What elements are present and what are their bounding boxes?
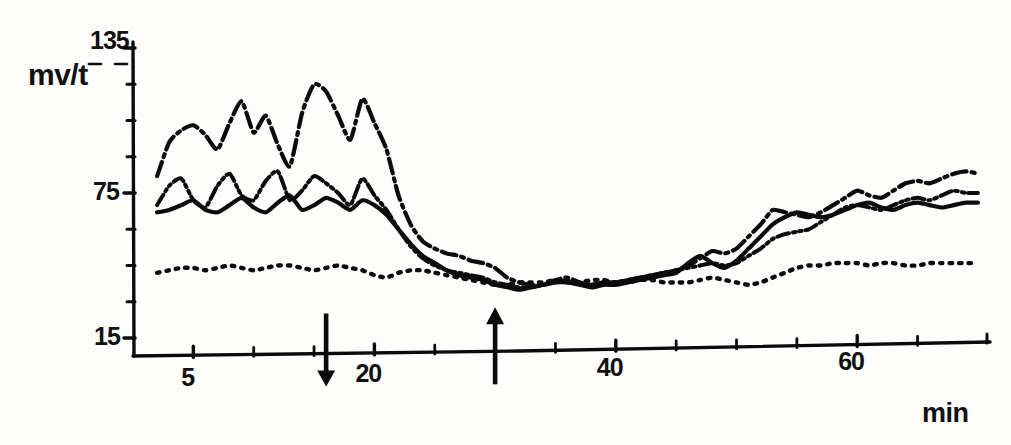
series-layer — [157, 84, 978, 290]
plot-area — [0, 0, 1011, 445]
down-arrow-head-icon — [317, 371, 335, 387]
chart-container: mv/t min 135 75 15 5 20 40 60 — [0, 0, 1011, 445]
up-arrow-head-icon — [486, 307, 504, 324]
series-line-trace-2 — [157, 171, 978, 287]
axes-layer — [89, 42, 990, 357]
series-line-trace-1 — [157, 84, 978, 285]
y-axis-line — [133, 42, 134, 356]
series-line-trace-4 — [157, 263, 978, 285]
x-axis-line — [133, 342, 990, 356]
annotation-layer — [317, 307, 504, 386]
